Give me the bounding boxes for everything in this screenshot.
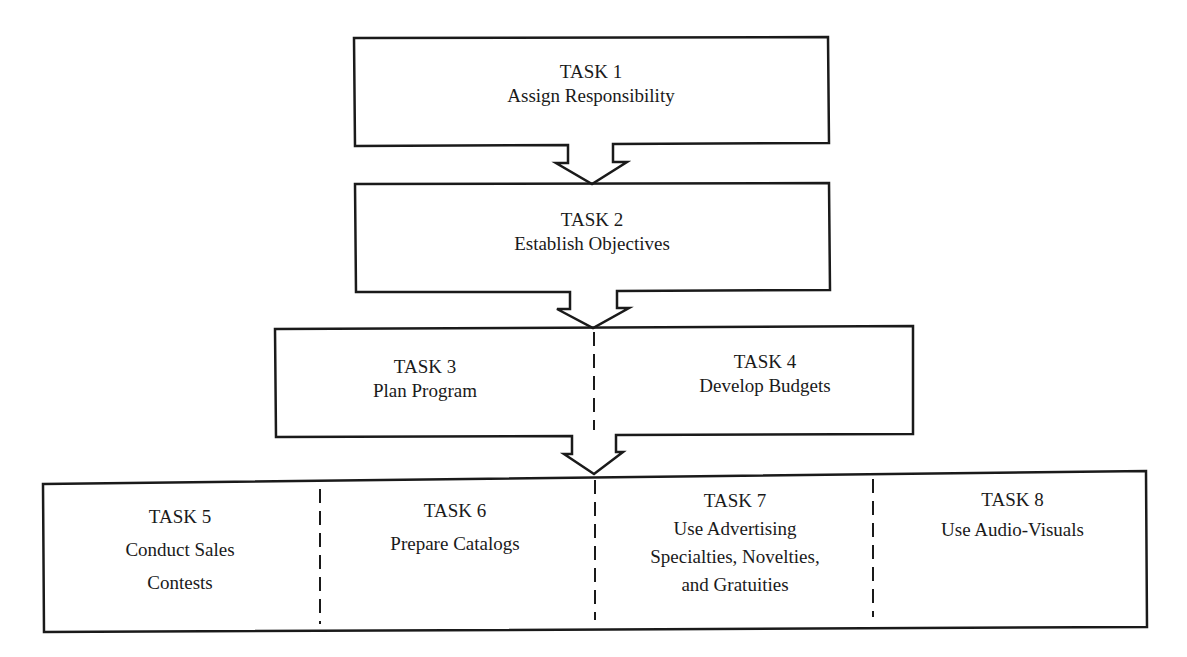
task-7: TASK 7 Use Advertising Specialties, Nove… [605, 487, 865, 599]
task-7-description-line-3: and Gratuities [605, 571, 865, 599]
task-5-description-line-1: Conduct Sales [60, 533, 300, 566]
task-6: TASK 6 Prepare Catalogs [330, 494, 580, 560]
task-2-title: TASK 2 [355, 208, 829, 232]
task-4-description: Develop Budgets [640, 374, 890, 398]
task-8-description: Use Audio-Visuals [885, 515, 1140, 545]
task-7-description-line-2: Specialties, Novelties, [605, 543, 865, 571]
task-6-title: TASK 6 [330, 494, 580, 527]
task-2-description: Establish Objectives [355, 232, 829, 256]
task-3-title: TASK 3 [300, 355, 550, 379]
task-1-title: TASK 1 [354, 60, 828, 84]
task-7-title: TASK 7 [605, 487, 865, 515]
task-5-description-line-2: Contests [60, 566, 300, 599]
task-8-title: TASK 8 [885, 485, 1140, 515]
task-8: TASK 8 Use Audio-Visuals [885, 485, 1140, 545]
task-7-description-line-1: Use Advertising [605, 515, 865, 543]
task-5-title: TASK 5 [60, 500, 300, 533]
task-2: TASK 2 Establish Objectives [355, 208, 829, 256]
task-3: TASK 3 Plan Program [300, 355, 550, 403]
task-1: TASK 1 Assign Responsibility [354, 60, 828, 108]
task-1-description: Assign Responsibility [354, 84, 828, 108]
task-4-title: TASK 4 [640, 350, 890, 374]
task-3-description: Plan Program [300, 379, 550, 403]
task-6-description: Prepare Catalogs [330, 527, 580, 560]
task-4: TASK 4 Develop Budgets [640, 350, 890, 398]
task-5: TASK 5 Conduct Sales Contests [60, 500, 300, 599]
